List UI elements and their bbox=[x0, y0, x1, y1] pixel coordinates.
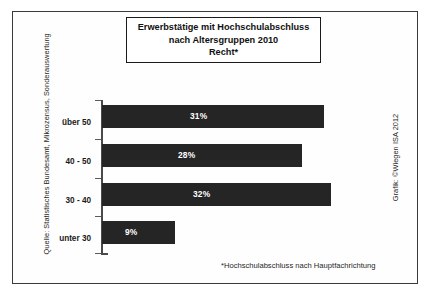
bar-value-30-40: 32% bbox=[193, 183, 210, 206]
category-label-40-50: 40 - 50 bbox=[13, 157, 91, 166]
axis-tick bbox=[95, 178, 101, 179]
bar-ueber-50[interactable] bbox=[102, 105, 324, 128]
plot-area: über 50 31% 40 - 50 28% 30 - 40 32% unte… bbox=[13, 12, 417, 283]
bar-40-50[interactable] bbox=[102, 144, 302, 167]
bar-row: 9% bbox=[102, 221, 175, 244]
category-label-ueber-50: über 50 bbox=[13, 118, 91, 127]
axis-tick bbox=[95, 216, 101, 217]
bar-value-ueber-50: 31% bbox=[190, 105, 207, 128]
chart-frame: Quelle: Statistisches Bundesamt, Mikroze… bbox=[12, 11, 418, 284]
bar-row: 31% bbox=[102, 105, 324, 128]
footnote: *Hochschulabschluss nach Hauptfachrichtu… bbox=[221, 261, 376, 270]
axis-tick bbox=[95, 139, 101, 140]
bar-30-40[interactable] bbox=[102, 183, 331, 206]
axis-tick bbox=[95, 100, 101, 101]
bar-unter-30[interactable] bbox=[102, 221, 175, 244]
y-axis-foot-tick bbox=[101, 253, 108, 255]
category-label-unter-30: unter 30 bbox=[13, 234, 91, 243]
category-label-30-40: 30 - 40 bbox=[13, 196, 91, 205]
axis-tick bbox=[95, 253, 101, 254]
bar-row: 32% bbox=[102, 183, 331, 206]
bar-value-40-50: 28% bbox=[178, 144, 195, 167]
bar-value-unter-30: 9% bbox=[125, 221, 138, 244]
bar-row: 28% bbox=[102, 144, 302, 167]
